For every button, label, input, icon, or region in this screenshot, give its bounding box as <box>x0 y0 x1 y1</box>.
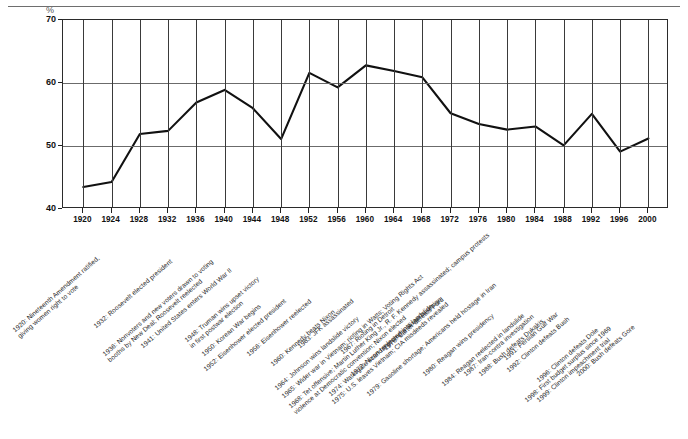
x-axis-tick <box>195 208 196 213</box>
x-axis-tick <box>647 208 648 213</box>
x-axis-tick <box>563 208 564 213</box>
x-axis-tick <box>337 208 338 213</box>
event-annotation-a1984: 1984: Reagan reelected in landslide <box>441 313 526 388</box>
gridline-vertical <box>253 20 254 207</box>
event-annotation-a1932: 1932: Roosevelt elected president <box>93 258 174 329</box>
y-axis-tick <box>58 19 62 20</box>
event-annotation-a1968-line2: violence at Democratic convention; Nixon… <box>293 314 408 415</box>
event-annotation-a1975: 1975: U.S. leaves Vietnam; CIA misdeeds … <box>331 301 450 406</box>
gridline-vertical <box>196 20 197 207</box>
gridline-vertical <box>479 20 480 207</box>
event-annotation-a1988: 1988: Bush defeats Dukakis <box>478 318 545 378</box>
event-annotation-a1963: 1963: JFK assassinated <box>297 298 355 350</box>
event-annotation-a2000: 2000: Bush defeats Gore <box>576 324 637 378</box>
event-annotation-a1920-line2: giving women right to vote <box>17 283 80 339</box>
gridline-vertical <box>140 20 141 207</box>
event-annotation-a1999: 1999: Clinton impeachment trial <box>536 337 611 404</box>
y-axis-tick <box>58 145 62 146</box>
x-axis-tick <box>619 208 620 213</box>
event-annotation-a1941: 1941: United States enters World War II <box>140 267 233 349</box>
gridline-vertical <box>564 20 565 207</box>
x-axis-tick <box>280 208 281 213</box>
event-annotation-a1980: 1980: Reagan wins presidency <box>422 313 495 378</box>
gridline-vertical <box>648 20 649 207</box>
event-annotation-a1996: 1996: Clinton defeats Dole <box>536 327 600 384</box>
gridline-vertical <box>83 20 84 207</box>
x-axis-tick <box>365 208 366 213</box>
event-annotation-a1948: 1948: Truman wins upset victory <box>184 276 261 344</box>
event-annotation-a1968: 1968: Tet offensive; Martin Luther King … <box>288 232 491 410</box>
gridline-vertical <box>112 20 113 207</box>
event-annotation-a1950: 1950: Korean War begins <box>201 303 262 358</box>
event-annotation-a1960: 1960: Kennedy beats Nixon <box>270 309 336 368</box>
event-annotation-a1987: 1987: Iran-contra investigation <box>463 314 535 378</box>
y-axis-tick-label: 40 <box>34 203 56 213</box>
event-annotation-a1976: 1976: Carter defeats Ford <box>383 296 445 351</box>
x-axis-tick <box>506 208 507 213</box>
gridline-vertical <box>535 20 536 207</box>
y-axis-tick-label: 50 <box>34 140 56 150</box>
gridline-vertical <box>281 20 282 207</box>
gridline-vertical <box>225 20 226 207</box>
x-axis-tick <box>82 208 83 213</box>
x-axis-tick <box>252 208 253 213</box>
event-annotation-a1998: 1998: First budget surplus since 1969 <box>524 325 613 403</box>
event-annotation-a1952: 1952: Eisenhower elected president <box>203 298 288 373</box>
x-axis-tick <box>139 208 140 213</box>
event-annotation-a1965: 1965: Wider war in Vietnam; rioting in W… <box>281 274 425 400</box>
x-axis-tick <box>450 208 451 213</box>
event-annotation-a1956: 1956: Eisenhower reelected <box>246 298 313 357</box>
x-axis-tick <box>224 208 225 213</box>
gridline-vertical <box>422 20 423 207</box>
x-axis-tick-label: 2000 <box>627 215 667 224</box>
event-annotation-a1920: 1920: Nineteenth Amendment ratified, <box>12 255 101 334</box>
gridline-vertical <box>451 20 452 207</box>
gridline-vertical <box>620 20 621 207</box>
gridline-vertical <box>366 20 367 207</box>
gridline-vertical <box>592 20 593 207</box>
event-annotation-a1972: 1972: Nixon reelected in a landslide <box>350 303 435 378</box>
y-axis-tick <box>58 82 62 83</box>
event-annotation-a1936: 1936: Nonvoters and new voters drawn to … <box>102 258 215 357</box>
x-axis-tick <box>591 208 592 213</box>
x-axis-tick <box>393 208 394 213</box>
gridline-vertical <box>309 20 310 207</box>
event-annotation-a1967: 1967: Rioting in Detroit <box>340 306 396 356</box>
gridline-vertical <box>394 20 395 207</box>
event-annotation-a1964: 1964: Johnson wins landslide victory <box>274 315 360 391</box>
gridline-vertical <box>168 20 169 207</box>
x-axis-tick <box>308 208 309 213</box>
y-axis-tick <box>58 208 62 209</box>
event-annotation-a1979: 1979: Gasoline shortage; Americans held … <box>366 282 498 398</box>
chart-page: % 40506070 19201924192819321936194019441… <box>0 0 688 439</box>
x-axis-tick <box>167 208 168 213</box>
event-annotation-a1948-line2: in first postwar election <box>189 300 245 350</box>
header-divider <box>8 6 680 7</box>
gridline-vertical <box>338 20 339 207</box>
event-annotation-a1991: 1991: Persian Gulf War <box>503 311 560 362</box>
x-axis-tick <box>111 208 112 213</box>
event-annotation-a1992: 1992: Clinton defeats Bush <box>506 316 571 374</box>
plot-area <box>62 19 668 208</box>
x-axis-tick <box>534 208 535 213</box>
event-annotation-a1936-line2: booths by New Deal; Roosevelt reelected <box>107 278 204 364</box>
event-annotation-a1974: 1974: Watergate scandal prompts Nixon to… <box>328 296 443 397</box>
gridline-vertical <box>507 20 508 207</box>
x-axis-tick <box>478 208 479 213</box>
x-axis-tick <box>421 208 422 213</box>
y-axis-tick-label: 70 <box>34 14 56 24</box>
y-axis-tick-label: 60 <box>34 77 56 87</box>
